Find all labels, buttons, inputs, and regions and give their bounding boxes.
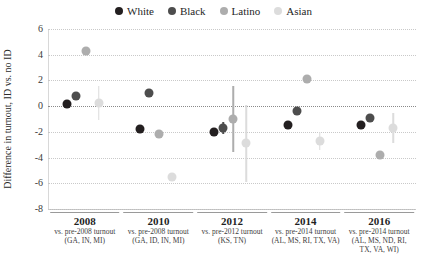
chart-container: WhiteBlackLatinoAsian Difference in turn…	[0, 0, 427, 261]
data-point-white-2010	[136, 125, 145, 134]
group-rule	[50, 212, 120, 213]
group-year-label: 2014	[271, 215, 341, 227]
group-year-label: 2016	[344, 215, 414, 227]
data-point-asian-2016	[389, 124, 398, 133]
gridline-2	[48, 80, 416, 81]
group-subtitle: vs. pre-2012 turnout	[197, 227, 267, 236]
y-axis-tick-label: 0	[38, 101, 43, 111]
y-axis-tick-label: -8	[35, 204, 43, 214]
group-subtitle: vs. pre-2008 turnout	[50, 227, 120, 236]
data-point-white-2012	[210, 127, 219, 136]
group-rule	[344, 212, 414, 213]
legend-swatch-icon	[274, 7, 282, 15]
gridline--6	[48, 183, 416, 184]
y-axis-label: Difference in turnout, ID vs. no ID	[2, 29, 14, 209]
legend-item-label: Asian	[286, 6, 312, 17]
data-point-asian-2010	[168, 172, 177, 181]
chart-legend: WhiteBlackLatinoAsian	[0, 2, 427, 20]
data-point-white-2008	[62, 99, 71, 108]
data-point-latino-2016	[376, 151, 385, 160]
x-axis-group-labels: 2008vs. pre-2008 turnout(GA, IN, MI)2010…	[48, 212, 416, 261]
data-point-asian-2014	[315, 136, 324, 145]
y-axis-tick-label: -6	[35, 178, 43, 188]
group-year-label: 2012	[197, 215, 267, 227]
gridline--8	[48, 209, 416, 210]
group-rule	[124, 212, 194, 213]
group-year-label: 2010	[124, 215, 194, 227]
x-group-2010: 2010vs. pre-2008 turnout(GA, ID, IN, MI)	[124, 212, 194, 245]
x-group-2016: 2016vs. pre-2014 turnout(AL, MS, ND, RI,…	[344, 212, 414, 254]
legend-item-white[interactable]: White	[115, 6, 154, 17]
legend-swatch-icon	[115, 7, 123, 15]
x-group-2008: 2008vs. pre-2008 turnout(GA, IN, MI)	[50, 212, 120, 245]
legend-swatch-icon	[220, 7, 228, 15]
group-subtitle: vs. pre-2014 turnout	[271, 227, 341, 236]
y-axis-line	[48, 29, 49, 209]
group-subtitle: vs. pre-2008 turnout	[124, 227, 194, 236]
gridline-4	[48, 55, 416, 56]
group-states-label: (AL, MS, ND, RI,TX, VA, WI)	[344, 236, 414, 254]
data-point-latino-2008	[81, 46, 90, 55]
data-point-black-2014	[292, 107, 301, 116]
y-axis-tick-label: 4	[38, 50, 43, 60]
x-group-2014: 2014vs. pre-2014 turnout(AL, MS, RI, TX,…	[271, 212, 341, 245]
gridline--4	[48, 158, 416, 159]
group-states-label: (GA, IN, MI)	[50, 236, 120, 245]
legend-item-black[interactable]: Black	[168, 6, 206, 17]
x-group-2012: 2012vs. pre-2012 turnout(KS, TN)	[197, 212, 267, 245]
legend-item-asian[interactable]: Asian	[274, 6, 312, 17]
data-point-white-2014	[283, 121, 292, 130]
legend-item-label: Latino	[232, 6, 261, 17]
data-point-black-2016	[366, 113, 375, 122]
data-point-asian-2008	[94, 98, 103, 107]
data-point-black-2012	[219, 124, 228, 133]
group-year-label: 2008	[50, 215, 120, 227]
data-point-latino-2012	[229, 115, 238, 124]
group-states-label: (AL, MS, RI, TX, VA)	[271, 236, 341, 245]
y-axis-tick-label: -2	[35, 127, 43, 137]
group-subtitle: vs. pre-2014 turnout	[344, 227, 414, 236]
data-point-latino-2010	[155, 130, 164, 139]
group-rule	[197, 212, 267, 213]
data-point-black-2010	[145, 89, 154, 98]
data-point-latino-2014	[302, 75, 311, 84]
legend-item-latino[interactable]: Latino	[220, 6, 261, 17]
group-rule	[271, 212, 341, 213]
legend-item-label: Black	[180, 6, 206, 17]
legend-item-label: White	[127, 6, 154, 17]
group-states-label: (GA, ID, IN, MI)	[124, 236, 194, 245]
gridline-6	[48, 29, 416, 30]
plot-area: 6420-2-4-6-8	[48, 29, 416, 209]
group-states-label: (KS, TN)	[197, 236, 267, 245]
legend-swatch-icon	[168, 7, 176, 15]
data-point-asian-2012	[242, 139, 251, 148]
y-axis-tick-label: 6	[38, 24, 43, 34]
y-axis-tick-label: -4	[35, 153, 43, 163]
data-point-white-2016	[357, 121, 366, 130]
y-axis-tick-label: 2	[38, 75, 43, 85]
data-point-black-2008	[71, 91, 80, 100]
